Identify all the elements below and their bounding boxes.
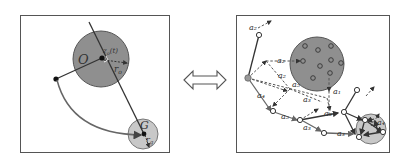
left-diagram: O zo(t) ro G rg	[21, 16, 171, 154]
label-left-lower-a4: a₄	[257, 91, 265, 100]
obstacle-label: O	[78, 52, 89, 67]
right-panel: a₂ a₂ a₂ a₅ a₄ a₃ a₁ a₅ a₃ a₃ a₃ a₄	[236, 15, 390, 153]
label-lower-mid-a5: a₅	[281, 112, 290, 121]
start-node	[245, 75, 251, 81]
label-bottom-mid-a3: a₃	[303, 123, 311, 132]
label-mid-dashed-a2: a₂	[278, 71, 286, 80]
obstacle-center-label: zo(t)	[102, 47, 118, 56]
label-near-obstacle-a1: a₁	[333, 87, 341, 96]
left-panel: O zo(t) ro G rg	[20, 15, 170, 153]
right-diagram: a₂ a₂ a₂ a₅ a₄ a₃ a₁ a₅ a₃ a₃ a₃ a₄	[237, 16, 391, 154]
goal-label: G	[140, 119, 149, 132]
label-goal-area-a4: a₄	[377, 118, 385, 127]
label-bottom-right-a3: a₃	[337, 129, 345, 138]
label-upper-dashed-a2: a₂	[277, 56, 285, 65]
double-arrow-icon	[182, 68, 228, 92]
label-lower-bold-a3: a₃	[324, 109, 332, 118]
label-mid-right-a3: a₃	[303, 95, 311, 104]
label-top-a2: a₂	[249, 23, 257, 32]
label-mid-dashed-a5: a₅	[292, 80, 301, 89]
obstacle-center-dot	[99, 55, 104, 60]
robot-path-arc	[57, 80, 141, 135]
